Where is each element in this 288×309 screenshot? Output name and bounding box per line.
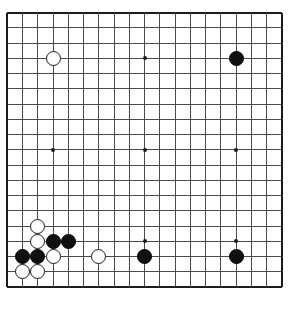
grid-line-vertical <box>98 13 99 288</box>
grid-line-vertical <box>220 13 221 288</box>
go-board-container <box>0 0 288 309</box>
stone-white[interactable] <box>46 51 61 66</box>
stone-black[interactable] <box>61 234 76 249</box>
grid-line-vertical <box>83 13 84 288</box>
star-point <box>143 239 147 243</box>
go-board-goban[interactable] <box>0 0 288 309</box>
stone-white[interactable] <box>30 264 45 279</box>
stone-black[interactable] <box>137 249 152 264</box>
grid-line-vertical <box>175 13 176 288</box>
grid-line-vertical <box>129 13 130 288</box>
grid-line-vertical <box>190 13 191 288</box>
stone-black[interactable] <box>46 234 61 249</box>
star-point <box>234 148 238 152</box>
star-point <box>143 148 147 152</box>
stone-white[interactable] <box>30 219 45 234</box>
stone-white[interactable] <box>30 234 45 249</box>
grid-line-vertical <box>159 13 160 288</box>
grid-line-vertical <box>205 13 206 288</box>
stone-black[interactable] <box>15 249 30 264</box>
stone-white[interactable] <box>46 249 61 264</box>
stone-black[interactable] <box>30 249 45 264</box>
grid-line-vertical <box>22 13 23 288</box>
grid-line-vertical <box>114 13 115 288</box>
stone-black[interactable] <box>229 249 244 264</box>
grid-line-vertical <box>6 13 8 288</box>
stone-black[interactable] <box>229 51 244 66</box>
star-point <box>234 239 238 243</box>
grid-line-vertical <box>281 13 283 288</box>
stone-white[interactable] <box>15 264 30 279</box>
grid-line-vertical <box>251 13 252 288</box>
grid-line-vertical <box>266 13 267 288</box>
star-point <box>143 56 147 60</box>
star-point <box>51 148 55 152</box>
stone-white[interactable] <box>91 249 106 264</box>
